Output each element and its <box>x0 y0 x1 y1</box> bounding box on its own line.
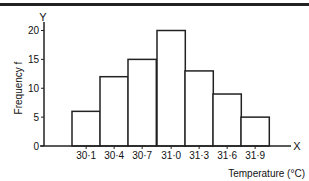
y-tick-label: 10 <box>28 83 40 94</box>
x-axis-label: Temperature (°C) <box>228 168 305 179</box>
x-ticks-group: 30·130·430·731·031·331·631·9 <box>76 146 265 161</box>
histogram-chart: 05101520 30·130·430·731·031·331·631·9 Y … <box>0 0 309 181</box>
y-tick-label: 0 <box>33 141 39 152</box>
y-axis-letter: Y <box>39 11 47 23</box>
x-tick-label: 31·9 <box>245 150 265 161</box>
y-tick-label: 20 <box>28 25 40 36</box>
histogram-bar <box>185 71 213 146</box>
bars-group <box>72 31 269 147</box>
y-axis-label: Frequency f <box>13 61 24 114</box>
histogram-bar <box>157 31 185 147</box>
x-axis-letter: X <box>293 140 301 152</box>
x-tick-label: 31·3 <box>189 150 209 161</box>
y-ticks-group: 05101520 <box>28 25 44 152</box>
x-tick-label: 31·0 <box>161 150 181 161</box>
y-tick-label: 15 <box>28 54 40 65</box>
x-tick-label: 30·1 <box>76 150 96 161</box>
x-tick-label: 30·7 <box>132 150 152 161</box>
histogram-bar <box>128 59 156 146</box>
x-tick-label: 31·6 <box>217 150 237 161</box>
histogram-bar <box>241 117 269 146</box>
histogram-bar <box>72 111 100 146</box>
histogram-bar <box>100 77 128 146</box>
y-tick-label: 5 <box>33 112 39 123</box>
x-tick-label: 30·4 <box>104 150 124 161</box>
histogram-bar <box>213 94 241 146</box>
